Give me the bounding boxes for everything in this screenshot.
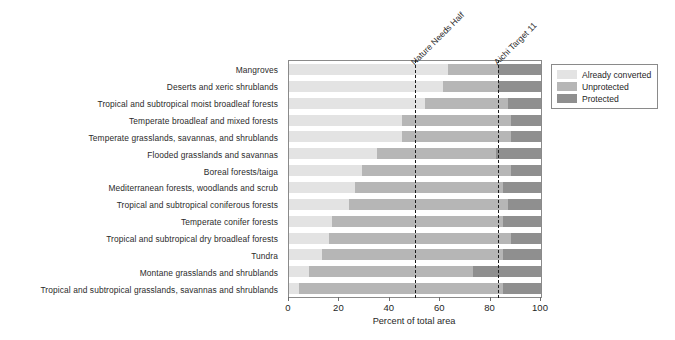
bar-segment [309, 266, 473, 277]
legend-label: Already converted [582, 70, 651, 80]
bar-segment [299, 283, 503, 294]
bar-segment [289, 182, 355, 193]
category-label: Deserts and xeric shrublands [167, 82, 278, 92]
category-label: Tropical and subtropical moist broadleaf… [98, 99, 278, 109]
category-label: Boreal forests/taiga [204, 167, 278, 177]
plot-area [288, 60, 542, 298]
category-label: Flooded grasslands and savannas [147, 150, 278, 160]
bar-segment [289, 199, 349, 210]
bar-segment [511, 233, 541, 244]
x-axis-title: Percent of total area [288, 316, 540, 326]
legend-item[interactable]: Already converted [557, 69, 651, 80]
x-axis: Percent of total area 020406080100 [288, 297, 540, 337]
bar-segment [511, 131, 541, 142]
bar-segment [503, 182, 541, 193]
bar-segment [511, 165, 541, 176]
category-label: Montane grasslands and shrublands [140, 268, 278, 278]
x-axis-tick [490, 297, 491, 301]
category-label: Temperate conifer forests [181, 217, 278, 227]
category-label: Mangroves [236, 65, 278, 75]
x-axis-tick-label: 100 [532, 302, 548, 313]
x-axis-tick [540, 297, 541, 301]
category-label: Mediterranean forests, woodlands and scr… [109, 183, 278, 193]
category-label: Temperate broadleaf and mixed forests [129, 116, 278, 126]
bar-segment [503, 283, 541, 294]
bar-segment [496, 148, 541, 159]
bar-segment [448, 64, 498, 75]
bar-segment [289, 98, 425, 109]
bar-segment [289, 115, 402, 126]
bar-segment [289, 64, 448, 75]
bar-segment [289, 165, 362, 176]
bar-segment [322, 249, 503, 260]
bar-segment [503, 216, 541, 227]
legend-label: Protected [582, 94, 619, 104]
stacked-bar-chart: MangrovesDeserts and xeric shrublandsTro… [0, 0, 675, 340]
x-axis-tick-label: 40 [384, 302, 395, 313]
bar-segment [289, 81, 443, 92]
category-label: Tropical and subtropical grasslands, sav… [40, 285, 278, 295]
bar-segment [402, 131, 510, 142]
bar-segment [508, 98, 541, 109]
x-axis-tick [338, 297, 339, 301]
category-label: Temperate grasslands, savannas, and shru… [89, 133, 278, 143]
category-label: Tropical and subtropical dry broadleaf f… [106, 234, 278, 244]
legend-swatch [557, 82, 577, 91]
category-label: Tundra [251, 251, 278, 261]
legend-label: Unprotected [582, 82, 629, 92]
x-axis-tick-label: 0 [285, 302, 290, 313]
chart-legend: Already convertedUnprotectedProtected [551, 64, 658, 109]
legend-item[interactable]: Unprotected [557, 81, 651, 92]
bar-segment [443, 81, 498, 92]
bar-segment [289, 249, 322, 260]
bar-segment [349, 199, 508, 210]
reference-line [498, 60, 499, 298]
bar-segment [508, 199, 541, 210]
category-label: Tropical and subtropical coniferous fore… [117, 200, 278, 210]
x-axis-tick [439, 297, 440, 301]
bar-segment [362, 165, 511, 176]
bar-segment [503, 249, 541, 260]
bar-segment [511, 115, 541, 126]
bar-segment [289, 148, 377, 159]
bar-segment [473, 266, 541, 277]
bar-segment [402, 115, 510, 126]
legend-swatch [557, 94, 577, 103]
bar-segment [289, 216, 332, 227]
x-axis-tick-label: 20 [333, 302, 344, 313]
x-axis-tick [389, 297, 390, 301]
bar-segment [377, 148, 495, 159]
bar-segment [498, 64, 541, 75]
legend-item[interactable]: Protected [557, 93, 651, 104]
bar-segment [355, 182, 504, 193]
bar-segment [332, 216, 503, 227]
bar-segment [289, 283, 299, 294]
legend-swatch [557, 70, 577, 79]
reference-line [415, 60, 416, 298]
bar-segment [425, 98, 508, 109]
bar-segment [289, 233, 329, 244]
x-axis-tick-label: 80 [484, 302, 495, 313]
x-axis-tick [288, 297, 289, 301]
category-label-column: MangrovesDeserts and xeric shrublandsTro… [0, 62, 283, 294]
bar-segment [289, 266, 309, 277]
x-axis-tick-label: 60 [434, 302, 445, 313]
bar-segment [289, 131, 402, 142]
reference-line-label: Nature Needs Half [409, 10, 466, 67]
bar-segment [498, 81, 541, 92]
bar-segment [329, 233, 510, 244]
